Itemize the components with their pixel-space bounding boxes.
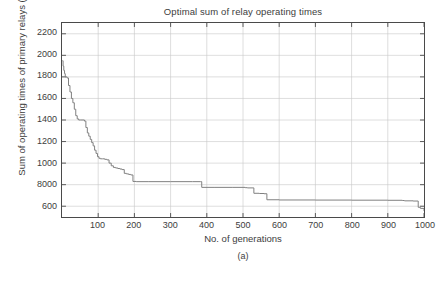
data-series-line — [62, 23, 424, 217]
figure-panel: Optimal sum of relay operating times 600… — [0, 0, 436, 281]
y-axis-tick-labels: 60080001000120014001600180020002200 — [22, 22, 57, 218]
x-tick-label: 400 — [187, 220, 227, 230]
plot-area — [61, 22, 425, 218]
y-tick-label: 8000 — [23, 179, 57, 189]
y-tick-label: 1400 — [23, 114, 57, 124]
y-tick-label: 2000 — [23, 49, 57, 59]
x-tick-label: 500 — [223, 220, 263, 230]
y-tick-label: 1000 — [23, 158, 57, 168]
x-axis-tick-labels: 1002003004005006007008009001000 — [61, 220, 425, 234]
chart-title: Optimal sum of relay operating times — [61, 6, 425, 17]
x-tick-label: 800 — [332, 220, 372, 230]
y-axis-title: Sum of operating times of primary relays… — [16, 0, 27, 182]
x-tick-label: 200 — [114, 220, 154, 230]
y-tick-label: 1600 — [23, 92, 57, 102]
x-tick-label: 300 — [150, 220, 190, 230]
x-tick-label: 600 — [259, 220, 299, 230]
x-axis-title: No. of generations — [61, 233, 425, 244]
figure-caption: (a) — [61, 251, 425, 261]
y-tick-label: 1200 — [23, 136, 57, 146]
x-tick-label: 1000 — [405, 220, 436, 230]
y-tick-label: 1800 — [23, 70, 57, 80]
y-tick-label: 2200 — [23, 27, 57, 37]
x-tick-label: 700 — [296, 220, 336, 230]
y-tick-label: 600 — [23, 201, 57, 211]
x-tick-label: 900 — [369, 220, 409, 230]
x-tick-label: 100 — [77, 220, 117, 230]
